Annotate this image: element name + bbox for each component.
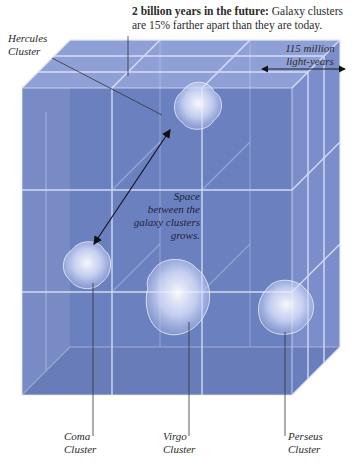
label-perseus: Perseus Cluster [288,430,348,456]
scale-label: 115 million light-years [270,42,350,68]
label-line: Hercules [8,32,78,45]
caption-lead: 2 billion years in the future: [132,5,269,17]
label-line: Cluster [64,443,124,456]
label-line: Virgo [163,430,223,443]
space-annotation: Space between the galaxy clusters grows. [120,190,200,242]
label-line: Space [120,190,200,203]
label-line: Cluster [8,45,78,58]
label-line: Cluster [288,443,348,456]
label-line: Cluster [163,443,223,456]
label-line: light-years [270,55,350,68]
label-coma: Coma Cluster [64,430,124,456]
label-line: grows. [120,229,200,242]
label-line: Coma [64,430,124,443]
label-virgo: Virgo Cluster [163,430,223,456]
label-line: 115 million [270,42,350,55]
label-line: between the [120,203,200,216]
label-line: Perseus [288,430,348,443]
label-line: galaxy clusters [120,216,200,229]
cube-side-face [292,40,340,395]
label-hercules: Hercules Cluster [8,32,78,58]
caption: 2 billion years in the future: Galaxy cl… [132,4,357,32]
